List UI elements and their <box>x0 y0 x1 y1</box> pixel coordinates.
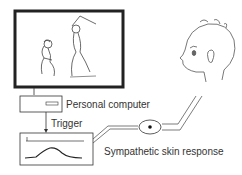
personal-computer-label: Personal computer <box>66 99 150 110</box>
subject-head <box>180 20 235 83</box>
sympathetic-skin-response-label: Sympathetic skin response <box>104 146 224 157</box>
electrode <box>139 120 161 134</box>
trigger-label: Trigger <box>51 118 82 129</box>
personal-computer-box <box>20 96 62 112</box>
monitor <box>15 11 123 87</box>
trigger-arrow <box>44 112 48 133</box>
recorder-box <box>20 133 93 165</box>
